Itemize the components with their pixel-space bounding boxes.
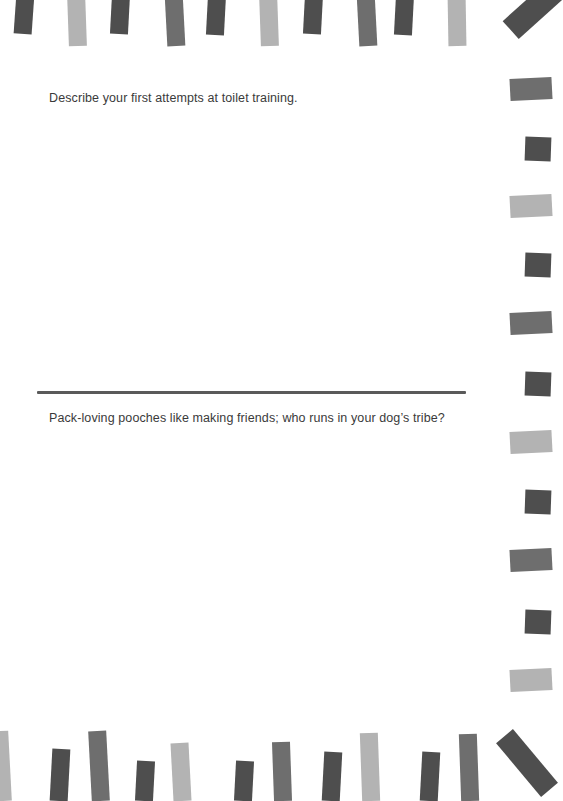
border-stripe: [14, 0, 35, 35]
border-stripe: [420, 752, 441, 801]
journal-prompt-toilet-training: Describe your first attempts at toilet t…: [49, 91, 298, 105]
border-stripe: [525, 137, 552, 162]
border-stripe: [525, 490, 552, 515]
border-stripe: [206, 0, 226, 35]
border-stripe: [459, 734, 479, 801]
writing-area-dog-tribe: [40, 435, 460, 695]
border-stripe: [259, 0, 279, 46]
border-stripe: [509, 548, 552, 572]
border-stripe: [509, 311, 552, 335]
border-stripe: [448, 0, 467, 46]
border-stripe: [525, 610, 552, 635]
border-stripe: [509, 77, 552, 101]
border-stripe: [360, 733, 380, 801]
border-stripe: [509, 430, 552, 454]
border-stripe: [357, 0, 378, 46]
border-stripe: [67, 0, 87, 46]
section-divider: [37, 391, 466, 394]
border-stripe: [135, 761, 155, 801]
border-stripe: [525, 372, 552, 397]
border-stripe: [303, 0, 323, 34]
corner-stripe: [503, 0, 563, 39]
journal-prompt-dog-tribe: Pack-loving pooches like making friends;…: [49, 411, 445, 425]
border-stripe: [0, 731, 12, 801]
border-stripe: [170, 743, 191, 801]
border-stripe: [88, 731, 110, 801]
border-stripe: [525, 253, 552, 278]
border-stripe: [165, 0, 186, 46]
corner-stripe: [496, 729, 558, 797]
border-stripe: [272, 742, 292, 801]
writing-area-toilet-training: [40, 115, 460, 380]
border-stripe: [234, 761, 254, 801]
border-stripe: [50, 749, 71, 801]
border-stripe: [509, 194, 552, 218]
border-stripe: [110, 0, 130, 34]
border-stripe: [322, 752, 343, 801]
border-stripe: [509, 668, 552, 692]
border-stripe: [394, 0, 414, 35]
